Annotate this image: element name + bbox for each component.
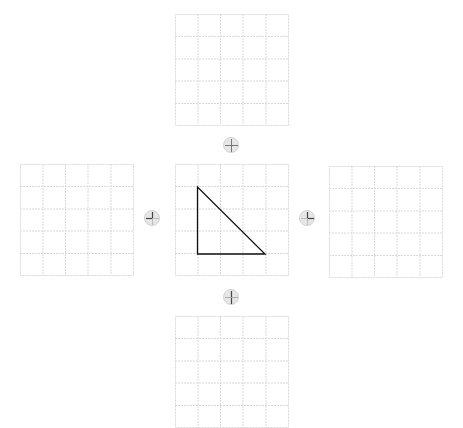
rotate-right-icon <box>300 211 316 227</box>
grid-lines <box>20 164 134 276</box>
reflect-horizontal-icon <box>224 290 240 306</box>
right-triangle <box>198 187 266 254</box>
transform-right-button[interactable] <box>299 210 315 226</box>
grid-right <box>329 166 443 278</box>
transform-up-button[interactable] <box>223 137 239 153</box>
grid-center <box>175 164 289 276</box>
rotate-left-icon <box>145 211 161 227</box>
grid-top <box>175 14 289 126</box>
transform-down-button[interactable] <box>223 289 239 305</box>
grid-bottom <box>175 316 289 428</box>
grid-lines <box>175 316 289 428</box>
grid-left <box>20 164 134 276</box>
grid-lines <box>175 14 289 126</box>
grid-lines <box>175 164 289 276</box>
transform-left-button[interactable] <box>144 210 160 226</box>
grid-lines <box>329 166 443 278</box>
reflect-vertical-cross-icon <box>224 138 240 154</box>
